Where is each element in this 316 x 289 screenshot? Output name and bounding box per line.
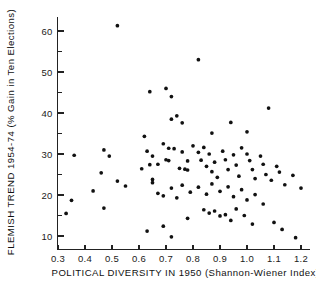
data-point <box>145 149 149 153</box>
data-point <box>148 163 152 167</box>
data-point <box>151 154 155 158</box>
tick-marks <box>58 31 302 250</box>
data-point <box>245 130 249 134</box>
y-tick-label-1: 20 <box>42 190 53 201</box>
x-tick-label-6: 0.9 <box>213 253 227 264</box>
data-point <box>232 153 236 157</box>
y-tick-label-4: 50 <box>42 67 53 78</box>
data-point <box>143 135 147 139</box>
data-point <box>294 236 298 240</box>
data-point <box>267 106 271 110</box>
data-point <box>172 147 176 151</box>
data-point <box>170 117 174 121</box>
data-point <box>156 192 160 196</box>
data-point <box>205 164 209 168</box>
data-point <box>264 173 268 177</box>
x-tick-label-3: 0.6 <box>132 253 146 264</box>
data-point <box>145 229 149 233</box>
plot-canvas: 0.30.40.50.60.70.80.91.01.11.21020304050… <box>0 0 316 289</box>
data-point <box>116 179 120 183</box>
data-point <box>207 211 211 215</box>
data-point <box>186 217 190 221</box>
data-point <box>272 221 276 225</box>
data-point <box>259 154 263 158</box>
data-point <box>197 185 201 189</box>
data-point <box>151 181 155 185</box>
data-point <box>116 24 120 28</box>
data-point <box>205 192 209 196</box>
data-point <box>251 222 255 226</box>
data-point <box>245 198 249 202</box>
data-point <box>156 162 160 166</box>
x-tick-label-7: 1.0 <box>240 253 254 264</box>
y-tick-label-3: 40 <box>42 108 53 119</box>
data-point <box>70 198 74 202</box>
scatter-plot-figure: 0.30.40.50.60.70.80.91.01.11.21020304050… <box>0 0 316 289</box>
data-point <box>234 163 238 167</box>
data-point <box>232 195 236 199</box>
data-point <box>253 193 257 197</box>
x-tick-label-4: 0.7 <box>159 253 173 264</box>
data-point <box>234 207 238 211</box>
x-tick-label-1: 0.4 <box>78 253 92 264</box>
data-point <box>283 183 287 187</box>
data-point <box>99 171 103 175</box>
data-point <box>275 164 279 168</box>
data-point <box>213 160 217 164</box>
data-point <box>191 144 195 148</box>
data-point <box>210 131 214 135</box>
data-point <box>186 159 190 163</box>
data-point <box>224 213 228 217</box>
data-point <box>180 121 184 125</box>
data-point <box>280 228 284 232</box>
data-point <box>245 152 249 156</box>
y-tick-label-5: 60 <box>42 26 53 37</box>
data-point <box>180 150 184 154</box>
data-point <box>72 153 76 157</box>
data-point <box>240 146 244 150</box>
tick-labels: 0.30.40.50.60.70.80.91.01.11.21020304050… <box>42 26 308 264</box>
data-point <box>224 158 228 162</box>
data-point <box>161 142 165 146</box>
data-point <box>107 154 111 158</box>
data-point <box>291 173 295 177</box>
data-point <box>140 167 144 171</box>
data-point <box>248 159 252 163</box>
data-point <box>175 114 179 118</box>
data-point <box>151 178 155 182</box>
data-point <box>148 90 152 94</box>
data-point <box>218 214 222 218</box>
data-point <box>170 186 174 190</box>
data-point <box>167 159 171 163</box>
data-point <box>240 188 244 192</box>
data-point <box>242 214 246 218</box>
data-point <box>170 235 174 239</box>
y-tick-label-2: 30 <box>42 149 53 160</box>
data-point <box>197 151 201 155</box>
data-point <box>124 184 128 188</box>
data-point <box>210 182 214 186</box>
x-tick-label-5: 0.8 <box>186 253 200 264</box>
data-point <box>253 177 257 181</box>
data-point <box>178 167 182 171</box>
data-point <box>221 149 225 153</box>
x-tick-label-0: 0.3 <box>51 253 65 264</box>
data-point <box>278 170 282 174</box>
data-point <box>207 152 211 156</box>
x-tick-label-9: 1.2 <box>294 253 308 264</box>
data-point <box>213 209 217 213</box>
data-point <box>164 87 168 91</box>
data-point <box>199 158 203 162</box>
data-point <box>202 208 206 212</box>
data-point <box>229 121 233 125</box>
data-point <box>64 212 68 216</box>
data-point <box>170 95 174 99</box>
data-point <box>251 168 255 172</box>
x-axis-title: POLITICAL DIVERSITY IN 1950 (Shannon-Wie… <box>52 267 316 278</box>
data-point <box>91 189 95 193</box>
data-point <box>229 219 233 223</box>
data-point <box>269 178 273 182</box>
data-point <box>161 224 165 228</box>
data-point <box>215 176 219 180</box>
data-point <box>202 146 206 150</box>
